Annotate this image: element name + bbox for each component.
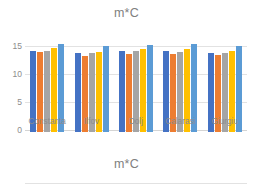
plot-area-bottom [0,171,253,189]
x-axis-label: Ilfov [70,118,114,126]
bar-groups [25,20,247,132]
x-axis-label: Constanta [25,118,69,126]
gridline-15-bottom [25,183,247,184]
x-axis-label: Calarasi [158,118,202,126]
y-tick-5: 5 [0,97,22,106]
y-tick-10: 10 [0,69,22,78]
x-axis-label: Dolj [114,118,158,126]
x-axis-labels: ConstantaIlfovDoljCalarasiGiurgiu [25,118,247,126]
plot-area-top: 15 10 5 0 [0,20,253,132]
bar-group [208,20,242,132]
bar-group [163,20,197,132]
y-tick-0: 0 [0,125,22,134]
chart-top: m*C 15 10 5 0 ConstantaIlfovDoljCalarasi… [0,0,253,148]
bar-group [30,20,64,132]
bar-group [75,20,109,132]
chart-title-bottom: m*C [0,148,253,171]
chart-title-top: m*C [0,0,253,20]
bar-group [119,20,153,132]
x-axis-label: Giurgiu [203,118,247,126]
chart-bottom: m*C [0,148,253,193]
y-tick-15: 15 [0,41,22,50]
